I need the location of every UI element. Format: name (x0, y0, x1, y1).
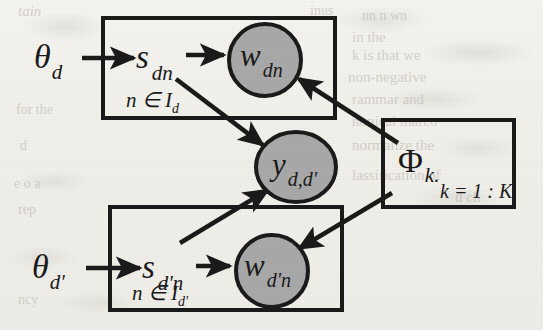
label-plate-k-index: k = 1 : K (440, 180, 514, 202)
svg-text:nn n wn: nn n wn (362, 8, 407, 23)
label-theta-d-sub: d (52, 60, 63, 84)
svg-text:ncy: ncy (18, 292, 38, 307)
label-plate-d-index-sub: d (172, 101, 180, 116)
label-theta-dprime: θd' (32, 248, 65, 294)
svg-text:rammar and: rammar and (352, 91, 425, 107)
label-theta-d: θd (34, 38, 63, 84)
label-phi-sub: k. (425, 163, 440, 187)
edge-phi-to-w-dprime-n (300, 193, 392, 248)
figure-canvas: tain inus nn n wn in the k is that we no… (0, 0, 543, 330)
svg-text:rep: rep (18, 202, 36, 217)
svg-text:non-negative: non-negative (348, 69, 427, 85)
svg-text:e o a: e o a (14, 176, 41, 191)
label-s-dn-sub: dn (152, 61, 173, 85)
label-w-dprime-n-sub: d'n (267, 269, 291, 291)
svg-text:tain: tain (18, 3, 41, 19)
svg-text:k is that we: k is that we (352, 47, 421, 63)
edge-s-dprime-n-to-y (180, 190, 268, 243)
plate-diagram: tain inus nn n wn in the k is that we no… (0, 0, 543, 330)
svg-text:in the: in the (352, 29, 386, 45)
label-plate-dprime-index-sub: d' (178, 294, 189, 309)
label-theta-dprime-sub: d' (50, 270, 66, 294)
label-plate-d-index: n ∈ Id (126, 88, 180, 116)
svg-text:inus: inus (310, 3, 333, 18)
svg-text:for the: for the (16, 102, 53, 117)
label-s-dn: sdn (136, 39, 173, 85)
label-y-sub: d,d' (288, 168, 318, 190)
label-w-dn-sub: dn (263, 59, 283, 81)
svg-text:d: d (20, 138, 27, 153)
node-y-circle (256, 132, 336, 202)
